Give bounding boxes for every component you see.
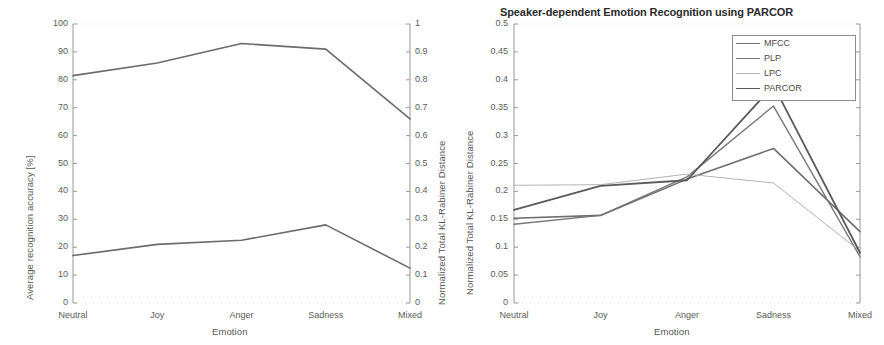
left-chart-x-tick-sadness: Sadness	[296, 310, 356, 320]
legend-line-swatch-mfcc	[736, 43, 760, 44]
legend-label-plp: PLP	[764, 54, 781, 63]
left-chart-y2-tick-0: 0	[415, 297, 445, 307]
right-chart-legend[interactable]: MFCCPLPLPCPARCOR	[732, 35, 856, 101]
right-chart-y-tick-0.25: 0.25	[474, 158, 508, 168]
left-chart-y2-tick-0.7: 0.7	[415, 102, 445, 112]
right-chart-y-tick-0.45: 0.45	[474, 46, 508, 56]
left-chart-panel: Average recognition accuracy [%] Normali…	[0, 0, 442, 345]
left-chart-x-tick-joy: Joy	[127, 310, 187, 320]
right-chart-y-tick-0.1: 0.1	[474, 241, 508, 251]
left-chart-x-tick-mixed: Mixed	[380, 310, 440, 320]
right-chart-y-tick-0.05: 0.05	[474, 269, 508, 279]
left-chart-y-tick-0: 0	[36, 297, 68, 307]
left-chart-y-tick-60: 60	[36, 130, 68, 140]
legend-item-mfcc[interactable]: MFCC	[733, 36, 855, 51]
right-chart-y-tick-0.4: 0.4	[474, 74, 508, 84]
right-chart-y-tick-0: 0	[474, 297, 508, 307]
right-chart-x-tick-mixed: Mixed	[830, 310, 884, 320]
right-chart-x-tick-joy: Joy	[571, 310, 631, 320]
left-chart-y2-tick-1: 1	[415, 18, 445, 28]
left-chart-y2-tick-0.8: 0.8	[415, 74, 445, 84]
legend-item-plp[interactable]: PLP	[733, 51, 855, 66]
left-chart-y2-tick-0.2: 0.2	[415, 241, 445, 251]
left-chart-x-tick-anger: Anger	[212, 310, 272, 320]
figure-canvas: Average recognition accuracy [%] Normali…	[0, 0, 884, 345]
left-chart-y-tick-100: 100	[36, 18, 68, 28]
left-chart-x-tick-neutral: Neutral	[43, 310, 103, 320]
left-chart-y-axis-left-title: Average recognition accuracy [%]	[24, 155, 35, 300]
left-chart-y2-tick-0.4: 0.4	[415, 185, 445, 195]
left-chart-y-tick-80: 80	[36, 74, 68, 84]
left-chart-y2-tick-0.6: 0.6	[415, 130, 445, 140]
left-chart-y-tick-30: 30	[36, 213, 68, 223]
right-chart-y-tick-0.5: 0.5	[474, 18, 508, 28]
right-chart-y-tick-0.35: 0.35	[474, 102, 508, 112]
right-chart-title: Speaker-dependent Emotion Recognition us…	[500, 6, 793, 18]
legend-label-parcor: PARCOR	[764, 84, 802, 93]
left-chart-y2-tick-0.3: 0.3	[415, 213, 445, 223]
right-chart-x-tick-neutral: Neutral	[484, 310, 544, 320]
left-chart-y-tick-50: 50	[36, 158, 68, 168]
left-chart-y2-tick-0.1: 0.1	[415, 269, 445, 279]
left-chart-y2-tick-0.5: 0.5	[415, 158, 445, 168]
legend-line-swatch-lpc	[736, 73, 760, 74]
right-chart-x-tick-anger: Anger	[657, 310, 717, 320]
legend-label-mfcc: MFCC	[764, 39, 790, 48]
right-chart-panel: Speaker-dependent Emotion Recognition us…	[442, 0, 884, 345]
left-chart-y-tick-70: 70	[36, 102, 68, 112]
left-chart-y-tick-10: 10	[36, 269, 68, 279]
legend-line-swatch-parcor	[736, 88, 760, 89]
right-chart-y-tick-0.15: 0.15	[474, 213, 508, 223]
right-chart-x-tick-sadness: Sadness	[744, 310, 804, 320]
legend-line-swatch-plp	[736, 58, 760, 59]
right-chart-x-axis-title: Emotion	[654, 326, 690, 337]
legend-label-lpc: LPC	[764, 69, 782, 78]
left-chart-y2-tick-0.9: 0.9	[415, 46, 445, 56]
left-chart-x-axis-title: Emotion	[212, 326, 248, 337]
left-chart-y-tick-40: 40	[36, 185, 68, 195]
left-chart-y-tick-20: 20	[36, 241, 68, 251]
legend-item-parcor[interactable]: PARCOR	[733, 81, 855, 96]
left-chart-y-tick-90: 90	[36, 46, 68, 56]
right-chart-y-tick-0.2: 0.2	[474, 185, 508, 195]
legend-item-lpc[interactable]: LPC	[733, 66, 855, 81]
right-chart-y-tick-0.3: 0.3	[474, 130, 508, 140]
